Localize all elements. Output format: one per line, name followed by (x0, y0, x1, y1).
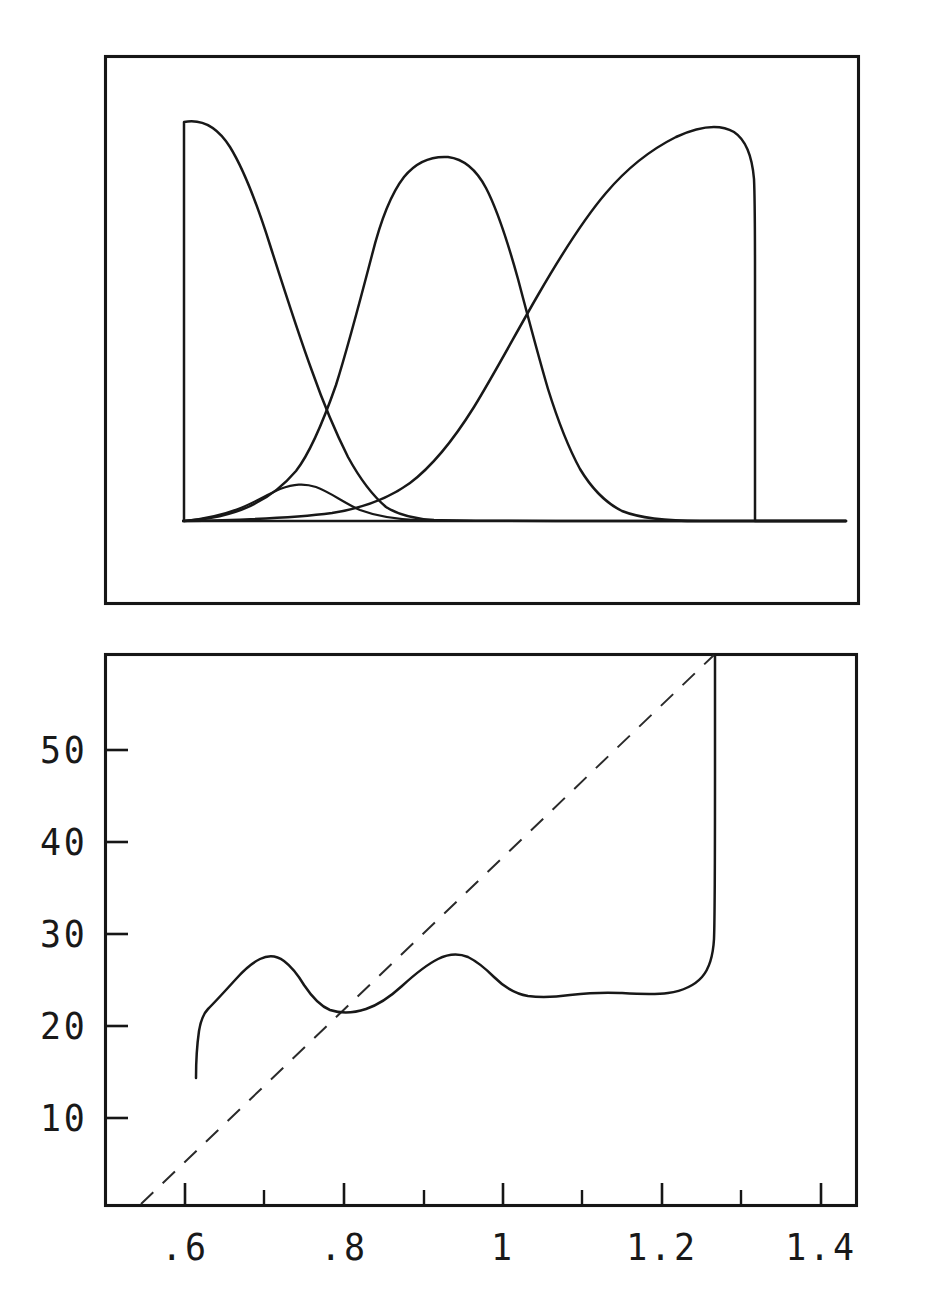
x-axis-label-1-0: 1 (439, 1228, 568, 1266)
upper-curve-c (184, 127, 846, 521)
upper-curve-b (184, 157, 846, 521)
lower-plot-svg (104, 653, 858, 1207)
y-axis-label-30: 30 (0, 915, 88, 953)
upper-curve-a-shoulder (184, 485, 504, 521)
lower-solid-curve (196, 655, 715, 1078)
y-axis-label-10: 10 (0, 1099, 88, 1137)
upper-plot-svg (104, 55, 860, 605)
y-axis-label-20: 20 (0, 1007, 88, 1045)
x-axis-label-1-4: 1.4 (757, 1228, 886, 1266)
y-axis-label-50: 50 (0, 731, 88, 769)
x-axis-label-0-8: .8 (280, 1228, 409, 1266)
lower-plot-panel (104, 653, 858, 1207)
lower-plot-x-major-ticks (185, 1183, 821, 1204)
figure-root: 50 40 30 20 10 .6 .8 1 1.2 1.4 (0, 0, 931, 1307)
x-axis-label-0-6: .6 (121, 1228, 250, 1266)
upper-curve-a (184, 121, 846, 521)
lower-plot-y-ticks (107, 750, 128, 1118)
upper-plot-panel (104, 55, 860, 605)
x-axis-label-1-2: 1.2 (598, 1228, 727, 1266)
y-axis-label-40: 40 (0, 823, 88, 861)
lower-dashed-reference-line (141, 655, 714, 1204)
lower-plot-frame (106, 655, 857, 1206)
